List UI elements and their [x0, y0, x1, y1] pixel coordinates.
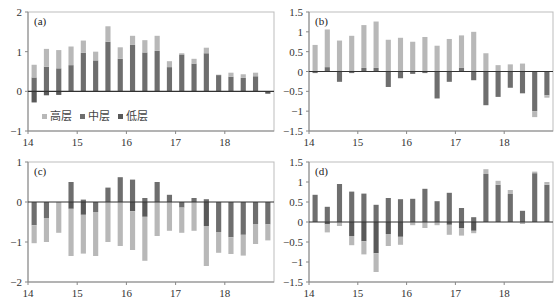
bar-segment — [508, 190, 513, 194]
bar-segment — [447, 193, 452, 222]
bar-segment — [422, 222, 427, 228]
bar-segment — [44, 218, 49, 242]
bar-segment — [167, 202, 172, 231]
chart-panel-c: 10−1−21415161718(c) — [10, 156, 274, 299]
bar-segment — [337, 41, 342, 72]
bar-segment — [398, 72, 403, 79]
bar-segment — [253, 73, 258, 77]
bar-segment — [32, 91, 37, 102]
x-tick-label: 18 — [219, 136, 231, 148]
bar-segment — [410, 199, 415, 222]
bar-segment — [508, 194, 513, 222]
x-tick-label: 16 — [401, 136, 413, 148]
bar-segment — [228, 77, 233, 92]
bar-segment — [68, 65, 73, 91]
bar-segment — [228, 237, 233, 254]
bar-segment — [81, 202, 86, 215]
x-tick-label: 15 — [352, 287, 364, 299]
y-tick-label: −1.5 — [283, 125, 303, 137]
bar-segment — [532, 172, 537, 174]
bar-segment — [155, 36, 160, 51]
bar-segment — [44, 67, 49, 92]
bar-segment — [155, 202, 160, 236]
legend-swatch-mid — [80, 114, 85, 119]
bar-segment — [508, 72, 513, 88]
panel-label: (d) — [315, 165, 328, 178]
y-tick-label: −1 — [291, 105, 303, 117]
bar-segment — [241, 78, 246, 91]
bar-segment — [105, 26, 110, 41]
bar-segment — [81, 53, 86, 91]
bar-segment — [93, 202, 98, 212]
legend-label-high: 高层 — [50, 109, 72, 123]
bar-segment — [325, 224, 330, 232]
y-tick-label: 2 — [17, 6, 23, 18]
bar-segment — [313, 195, 318, 222]
bar-segment — [471, 72, 476, 81]
bar-segment — [228, 73, 233, 77]
bar-segment — [337, 72, 342, 82]
chart-panel-b: 1.510.50−0.5−1−1.51415161718(b) — [283, 6, 553, 148]
bar-segment — [386, 40, 391, 72]
x-tick-label: 14 — [23, 136, 35, 148]
bar-segment — [386, 72, 391, 87]
bar-segment — [167, 61, 172, 67]
bar-segment — [508, 64, 513, 71]
y-tick-label: −0.5 — [283, 236, 303, 248]
x-tick-label: 18 — [499, 287, 511, 299]
y-tick-label: 1 — [298, 176, 304, 188]
bar-segment — [130, 36, 135, 45]
bar-segment — [361, 241, 366, 254]
bar-segment — [179, 53, 184, 54]
x-tick-label: 16 — [121, 136, 133, 148]
bar-segment — [544, 72, 549, 96]
bar-segment — [374, 253, 379, 272]
y-tick-label: 1.5 — [289, 6, 303, 18]
bar-segment — [68, 47, 73, 66]
bar-segment — [191, 202, 196, 231]
bar-segment — [471, 217, 476, 222]
bar-segment — [253, 224, 258, 244]
bar-segment — [204, 226, 209, 266]
bar-segment — [155, 182, 160, 202]
bar-segment — [398, 237, 403, 245]
x-tick-label: 18 — [499, 136, 511, 148]
bar-segment — [216, 232, 221, 253]
bar-segment — [93, 212, 98, 256]
bar-segment — [228, 202, 233, 237]
bar-segment — [81, 215, 86, 254]
bar-segment — [471, 32, 476, 72]
bar-segment — [118, 59, 123, 92]
bar-segment — [471, 231, 476, 233]
bar-segment — [118, 202, 123, 246]
y-tick-label: −1 — [10, 236, 22, 248]
bar-segment — [349, 236, 354, 245]
bar-segment — [374, 205, 379, 222]
bar-segment — [496, 65, 501, 71]
bar-segment — [374, 222, 379, 253]
bar-segment — [93, 52, 98, 61]
bar-segment — [216, 202, 221, 232]
bar-segment — [337, 184, 342, 222]
bar-segment — [68, 202, 73, 209]
x-tick-label: 14 — [304, 136, 316, 148]
bar-segment — [105, 202, 110, 242]
bar-segment — [204, 202, 209, 226]
bar-segment — [142, 217, 147, 261]
bar-segment — [179, 208, 184, 233]
bar-segment — [386, 222, 391, 234]
bar-segment — [44, 202, 49, 218]
bar-segment — [447, 225, 452, 235]
y-tick-label: −2 — [10, 276, 22, 288]
y-tick-label: 1.5 — [289, 156, 303, 168]
bar-segment — [130, 45, 135, 91]
bar-segment — [241, 202, 246, 235]
x-tick-label: 15 — [72, 136, 84, 148]
bar-segment — [325, 29, 330, 67]
legend-label-mid: 中层 — [88, 110, 110, 123]
bar-segment — [459, 208, 464, 222]
bar-segment — [447, 72, 452, 82]
bar-segment — [118, 177, 123, 202]
bar-segment — [520, 72, 525, 94]
x-tick-label: 17 — [450, 136, 462, 148]
